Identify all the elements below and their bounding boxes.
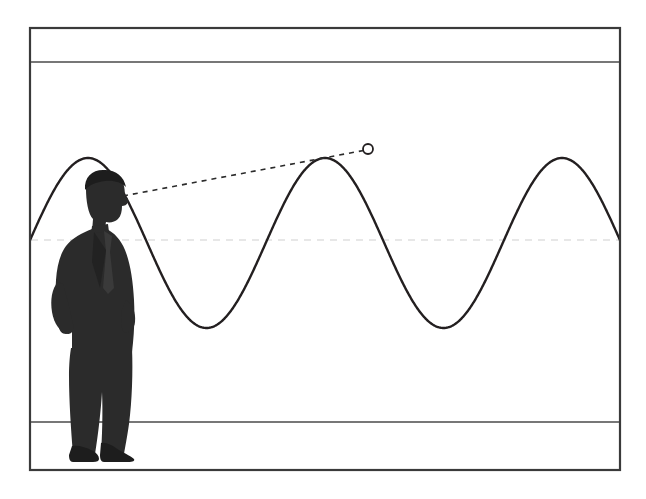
observation-point-marker[interactable]	[363, 144, 373, 154]
sine-wave-illustration	[0, 0, 646, 499]
figure-canvas	[0, 0, 646, 499]
